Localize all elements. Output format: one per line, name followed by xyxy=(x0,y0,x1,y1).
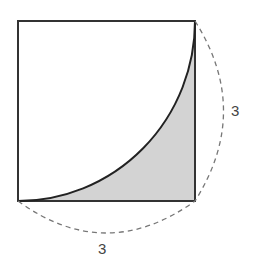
bottom-dimension-arc xyxy=(18,201,195,233)
shaded-region xyxy=(18,21,195,201)
right-side-label: 3 xyxy=(231,102,239,119)
right-dimension-arc xyxy=(195,21,224,201)
geometry-diagram: 3 3 xyxy=(0,0,254,271)
bottom-side-label: 3 xyxy=(98,240,106,257)
